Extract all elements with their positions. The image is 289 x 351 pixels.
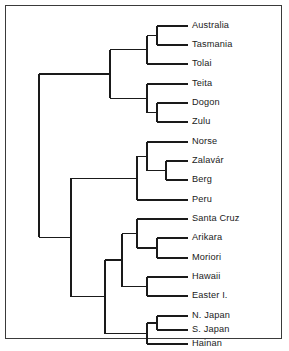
dendrogram-tree (0, 0, 289, 351)
leaf-label-tolai: Tolai (192, 59, 212, 68)
leaf-label-santa-cruz: Santa Cruz (192, 214, 239, 223)
leaf-label-australia: Australia (192, 21, 229, 30)
leaf-label-teita: Teita (192, 79, 212, 88)
leaf-label-hainan: Hainan (192, 339, 222, 348)
leaf-label-s-japan: S. Japan (192, 325, 229, 334)
leaf-label-hawaii: Hawaii (192, 272, 220, 281)
dendrogram-figure: Australia Tasmania Tolai Teita Dogon Zul… (0, 0, 289, 351)
leaf-label-norse: Norse (192, 137, 217, 146)
leaf-label-zalavar: Zalavár (192, 156, 224, 165)
leaf-label-peru: Peru (192, 195, 212, 204)
leaf-label-n-japan: N. Japan (192, 311, 230, 320)
leaf-label-moriori: Moriori (192, 253, 221, 262)
leaf-label-zulu: Zulu (192, 117, 210, 126)
leaf-label-berg: Berg (192, 175, 212, 184)
leaf-label-tasmania: Tasmania (192, 40, 233, 49)
leaf-label-dogon: Dogon (192, 98, 220, 107)
leaf-label-easter-i: Easter I. (192, 291, 228, 300)
leaf-label-arikara: Arikara (192, 233, 222, 242)
